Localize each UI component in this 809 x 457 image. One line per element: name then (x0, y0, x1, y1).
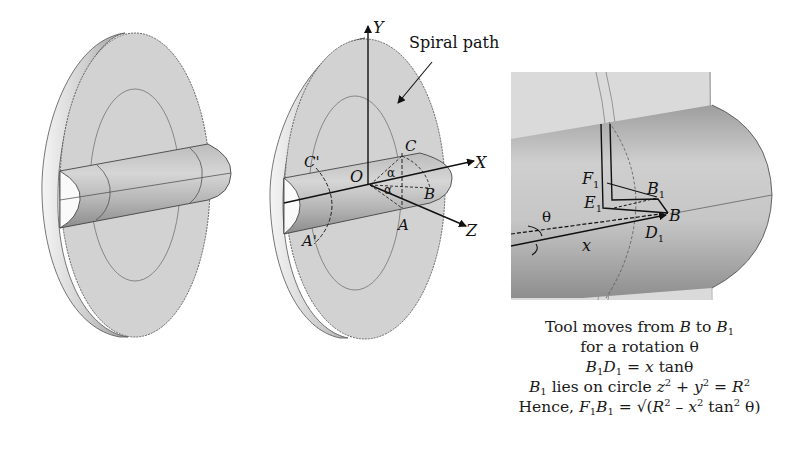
label-alpha-lower: α (384, 183, 392, 197)
label-alpha-upper: α (387, 166, 395, 180)
label-origin: O (350, 167, 363, 186)
inset-view (511, 72, 772, 300)
label-point-b: B (423, 185, 435, 203)
label-point-c: C (405, 137, 417, 155)
label-y-axis: Y (373, 18, 385, 37)
label-z-axis: Z (465, 221, 478, 240)
label-point-a: A (396, 216, 409, 234)
label-b: B (668, 206, 681, 225)
label-point-c-prime: C' (304, 153, 320, 171)
caption-line-4: B1 lies on circle z2 + y2 = R2 (470, 377, 809, 397)
inset-shaft (511, 105, 772, 298)
caption-line-1: Tool moves from B to B1 (470, 317, 809, 337)
figure-caption: Tool moves from B to B1 for a rotation θ… (470, 317, 809, 417)
caption-line-5: Hence, F1B1 = √(R2 – x2 tan2 θ) (470, 397, 809, 417)
middle-disc-assembly (270, 26, 474, 339)
caption-line-2: for a rotation θ (470, 337, 809, 357)
label-x-distance: x (582, 236, 591, 255)
label-point-a-prime: A' (300, 232, 317, 250)
caption-line-3: B1D1 = x tanθ (470, 357, 809, 377)
left-disc-assembly (42, 33, 231, 337)
label-spiral-path: Spiral path (409, 33, 499, 52)
label-x-axis: X (473, 153, 487, 172)
label-theta: θ (542, 208, 551, 226)
